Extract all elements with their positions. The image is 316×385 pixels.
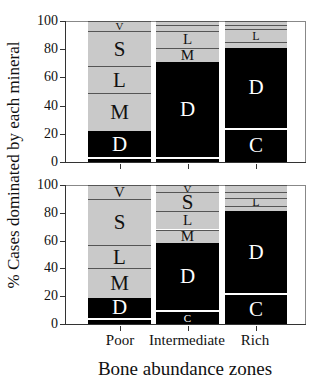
x-tick-mark	[256, 164, 257, 169]
axis-lines	[65, 21, 306, 163]
y-tick-label: 20	[34, 289, 58, 303]
x-tick-mark	[120, 164, 121, 169]
y-tick-label: 60	[34, 70, 58, 84]
y-tick-label: 80	[34, 42, 58, 56]
y-axis-label: % Cases dominated by each mineral	[4, 42, 24, 289]
x-tick-mark	[188, 164, 189, 169]
y-tick-label: 0	[34, 317, 58, 331]
y-tick-label: 60	[34, 234, 58, 248]
x-tick-label-rich: Rich	[241, 332, 269, 349]
x-axis-title: Bone abundance zones	[98, 358, 272, 380]
y-tick-label: 100	[34, 178, 58, 192]
y-tick-label: 20	[34, 127, 58, 141]
axis-lines	[65, 185, 306, 325]
x-tick-mark	[120, 326, 121, 331]
y-tick-label: 40	[34, 261, 58, 275]
x-tick-label-poor: Poor	[106, 332, 134, 349]
y-tick-label: 0	[34, 155, 58, 169]
x-tick-mark	[256, 326, 257, 331]
y-tick-label: 80	[34, 206, 58, 220]
y-tick-label: 40	[34, 99, 58, 113]
x-tick-mark	[188, 326, 189, 331]
x-tick-label-intermediate: Intermediate	[149, 332, 225, 349]
y-tick-label: 100	[34, 14, 58, 28]
